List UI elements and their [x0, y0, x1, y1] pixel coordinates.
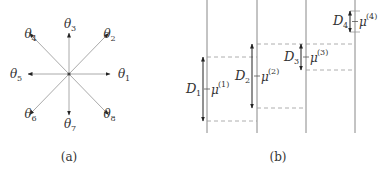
interval-3-index: 3 — [294, 57, 299, 66]
figure: θ1θ2θ3θ4θ5θ6θ7θ8 (a) D 1 μ — [0, 0, 388, 175]
ray-south-east — [69, 74, 108, 115]
mean-2-label: μ (2) — [261, 67, 279, 84]
caption-a: (a) — [61, 150, 78, 164]
theta-index: 7 — [71, 124, 76, 133]
theta-3-label: θ3 — [64, 17, 76, 33]
origin-dot — [67, 72, 70, 75]
interval-1-label: D 1 — [185, 81, 201, 98]
interval-3-label: D 3 — [283, 49, 299, 66]
theta-index: 2 — [111, 34, 116, 43]
interval-4-index: 4 — [343, 21, 348, 30]
panel-b: D 1 μ (1) D 2 μ (2) D 3 μ (3) D 4 μ ( — [185, 0, 377, 164]
theta-index: 1 — [125, 74, 130, 83]
theta-index: 3 — [71, 24, 76, 33]
interval-4-label: D 4 — [332, 13, 348, 30]
mean-3-label: μ (3) — [310, 48, 328, 65]
ray-south-west — [30, 74, 69, 115]
interval-2-label: D 2 — [234, 68, 250, 85]
ray-north-east — [69, 33, 108, 74]
mean-4-label: μ (4) — [359, 12, 377, 29]
theta-index: 4 — [31, 34, 36, 43]
theta-index: 6 — [31, 114, 36, 123]
mean-4-index: (4) — [366, 12, 377, 21]
theta-2-label: θ2 — [104, 27, 116, 43]
theta-5-label: θ5 — [10, 67, 22, 83]
mean-1-index: (1) — [218, 80, 229, 89]
interval-2-index: 2 — [245, 76, 250, 85]
interval-1-index: 1 — [196, 89, 201, 98]
theta-1-label: θ1 — [118, 67, 130, 83]
theta-4-label: θ4 — [24, 27, 36, 43]
caption-b: (b) — [269, 150, 286, 164]
theta-index: 5 — [17, 74, 22, 83]
mean-3-index: (3) — [317, 48, 328, 57]
theta-index: 8 — [111, 114, 116, 123]
mean-1-label: μ (1) — [211, 80, 229, 97]
mean-2-index: (2) — [268, 67, 279, 76]
panel-a: θ1θ2θ3θ4θ5θ6θ7θ8 (a) — [10, 17, 130, 164]
theta-8-label: θ8 — [104, 107, 116, 123]
theta-7-label: θ7 — [64, 117, 76, 133]
